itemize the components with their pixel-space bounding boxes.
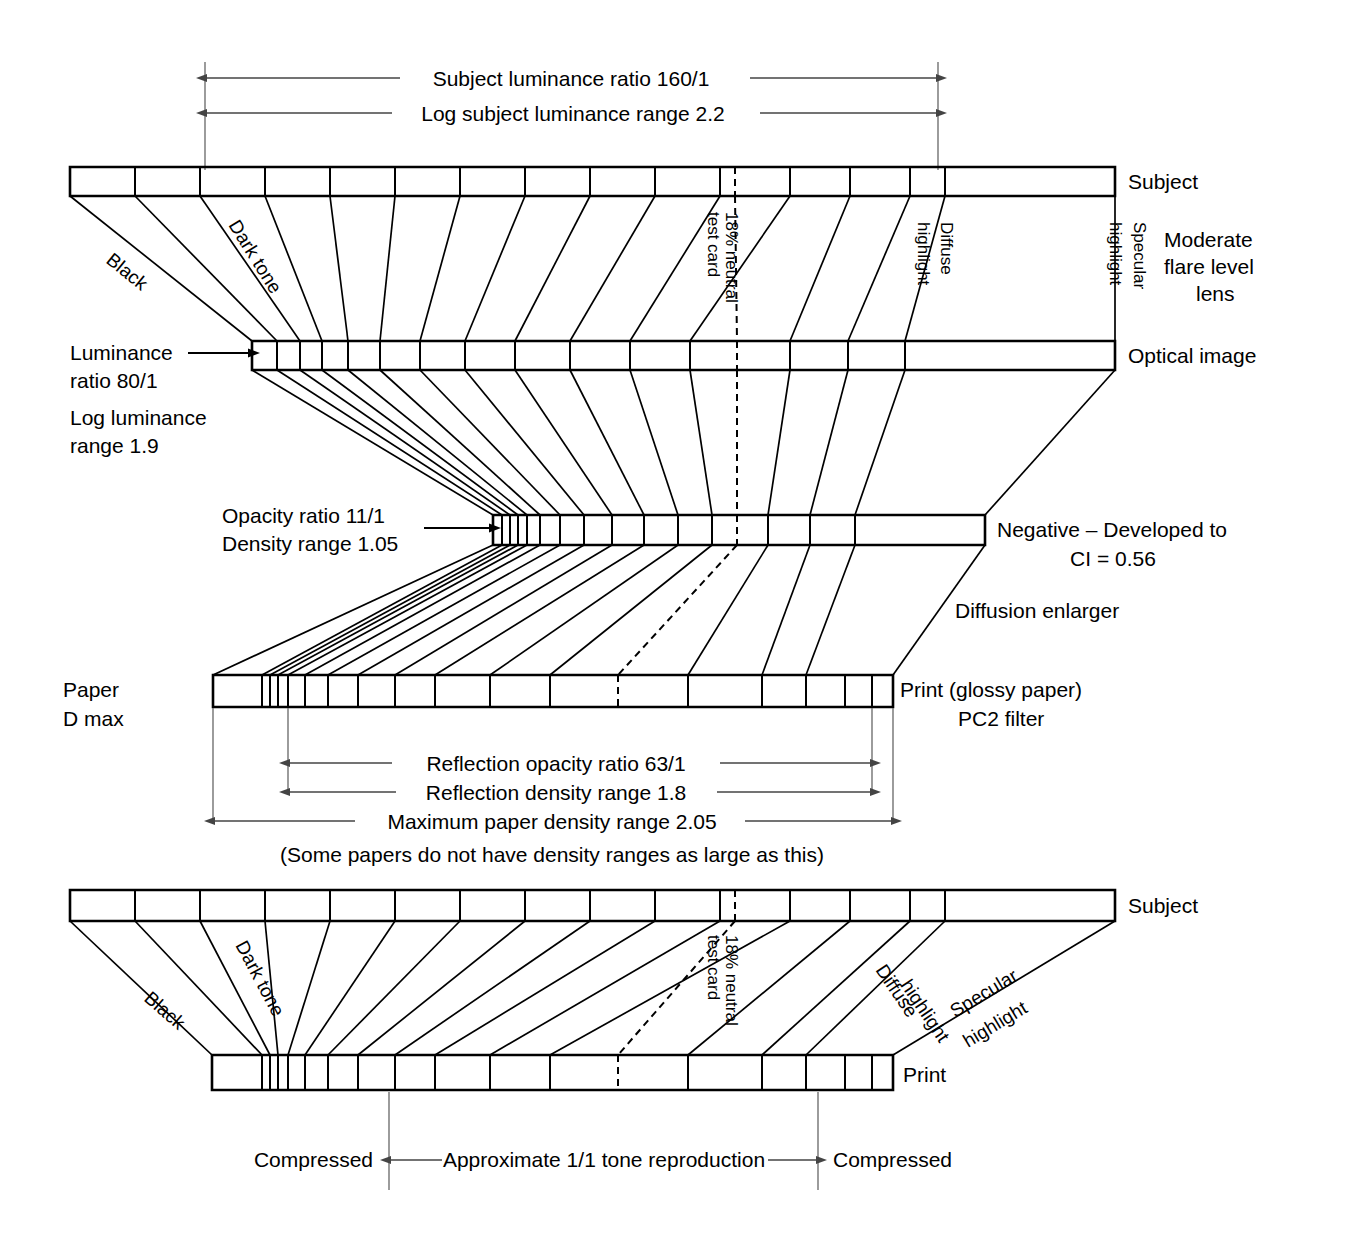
tone-label-specular-line2-top: highlight [1106, 222, 1125, 286]
stage-label-print-top: Print (glossy paper) PC2 filter [900, 678, 1082, 730]
bar-print-outline [213, 675, 893, 707]
stage-label-negative: Negative – Developed to CI = 0.56 [997, 518, 1227, 570]
diagram-canvas: Subject luminance ratio 160/1 Log subjec… [0, 0, 1351, 1241]
tone-label-neutral-card-line1-bottom: 18% neutral [722, 935, 741, 1026]
zone-label-compressed-highlights: Compressed [833, 1148, 952, 1171]
bar-print-lower-divisions [262, 1055, 872, 1090]
tone-reproduction-diagram: Subject luminance ratio 160/1 Log subjec… [0, 0, 1351, 1241]
dim-label-maximum-paper-density-range: Maximum paper density range 2.05 [387, 810, 716, 833]
stage-label-optical-image: Optical image [1128, 344, 1256, 367]
bar-print-bottom [212, 1055, 893, 1090]
opacity-ratio-line1: Opacity ratio 11/1 [222, 504, 385, 527]
print-label-line1: Print (glossy paper) [900, 678, 1082, 701]
annotation-paper-dmax: Paper D max [63, 678, 124, 730]
dim-label-log-subject-luminance-range: Log subject luminance range 2.2 [421, 102, 725, 125]
tone-label-neutral-card-line1-top: 18% neutral [722, 212, 741, 303]
bar-print-top [213, 675, 893, 707]
bar-print-lower-outline [212, 1055, 893, 1090]
dim-label-subject-luminance-ratio: Subject luminance ratio 160/1 [433, 67, 710, 90]
top-dimension-group: Subject luminance ratio 160/1 Log subjec… [205, 62, 938, 170]
annotation-luminance-ratio: Luminance ratio 80/1 [70, 341, 248, 392]
dim-label-reflection-opacity-ratio: Reflection opacity ratio 63/1 [426, 752, 685, 775]
process-label-lens: Moderate flare level lens [1164, 228, 1254, 305]
links-optical-to-negative [252, 370, 1115, 515]
bar-optical-image [252, 341, 1115, 370]
negative-label-line1: Negative – Developed to [997, 518, 1227, 541]
links-negative-to-print [213, 545, 985, 675]
tone-label-specular-line1-top: Specular [1130, 222, 1149, 289]
tone-label-neutral-card-line2-top: test card [704, 212, 723, 277]
luminance-ratio-line2: ratio 80/1 [70, 369, 158, 392]
process-label-diffusion-enlarger: Diffusion enlarger [955, 599, 1119, 622]
bar-subject-lower-outline [70, 890, 1115, 921]
opacity-ratio-line2: Density range 1.05 [222, 532, 398, 555]
bar-negative [493, 515, 985, 545]
bar-subject-lower-divisions [135, 890, 945, 921]
zone-label-compressed-shadows: Compressed [254, 1148, 373, 1171]
log-luminance-range-line1: Log luminance [70, 406, 207, 429]
process-lens-line3: lens [1196, 282, 1235, 305]
tone-label-neutral-card-line2-bottom: test card [704, 935, 723, 1000]
bar-negative-divisions [502, 515, 855, 545]
compression-zone-group: Compressed Approximate 1/1 tone reproduc… [254, 1092, 952, 1190]
bar-optical-divisions [277, 341, 905, 370]
links-subject-to-optical [70, 196, 1115, 341]
tone-label-dark-tone-bottom: Dark tone [231, 937, 288, 1020]
bar-optical-outline [252, 341, 1115, 370]
link-dashed-neutral-card-negative-print [618, 545, 737, 675]
bar-subject-outline [70, 167, 1115, 196]
annotation-log-luminance-range: Log luminance range 1.9 [70, 406, 207, 457]
paper-dmax-line1: Paper [63, 678, 119, 701]
log-luminance-range-line2: range 1.9 [70, 434, 159, 457]
paper-dmax-line2: D max [63, 707, 124, 730]
zone-label-approximate-tone-reproduction: Approximate 1/1 tone reproduction [443, 1148, 765, 1171]
top-bottom-dimension-group: Reflection opacity ratio 63/1 Reflection… [213, 708, 893, 833]
bar-subject-bottom [70, 890, 1115, 921]
stage-label-print-bottom: Print [903, 1063, 946, 1086]
bar-negative-outline [493, 515, 985, 545]
annotation-opacity-ratio: Opacity ratio 11/1 Density range 1.05 [222, 504, 489, 555]
process-lens-line1: Moderate [1164, 228, 1253, 251]
dim-label-reflection-density-range: Reflection density range 1.8 [426, 781, 686, 804]
bar-subject-divisions [135, 167, 945, 196]
links-subject-to-print-lower [70, 921, 1115, 1055]
print-label-line2: PC2 filter [958, 707, 1044, 730]
luminance-ratio-line1: Luminance [70, 341, 173, 364]
negative-label-line2: CI = 0.56 [1070, 547, 1156, 570]
bar-print-divisions [262, 675, 872, 707]
process-lens-line2: flare level [1164, 255, 1254, 278]
stage-label-subject-bottom: Subject [1128, 894, 1198, 917]
stage-label-subject-top: Subject [1128, 170, 1198, 193]
bar-subject-top [70, 167, 1115, 196]
tone-label-diffuse-line1-top: Diffuse [937, 222, 956, 275]
footnote-density-range: (Some papers do not have density ranges … [280, 843, 824, 866]
tone-label-diffuse-line2-top: highlight [914, 222, 933, 286]
